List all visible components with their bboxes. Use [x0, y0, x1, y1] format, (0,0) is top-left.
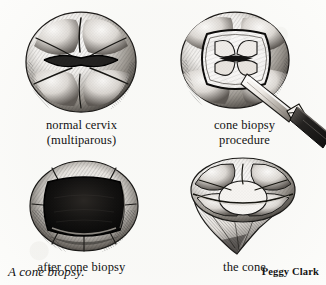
illustration-page: normal cervix (multiparous): [0, 0, 326, 285]
artist-credit: Peggy Clark: [262, 266, 319, 277]
after-cone-biopsy-drawing: [18, 158, 150, 254]
normal-cervix-drawing: [14, 8, 149, 116]
caption-cone-biopsy-procedure: cone biopsy procedure: [163, 118, 326, 147]
panel-cone-biopsy-procedure: cone biopsy procedure: [163, 0, 326, 150]
caption-normal-cervix: normal cervix (multiparous): [0, 118, 163, 147]
figure-title: A cone biopsy.: [8, 264, 85, 280]
panel-the-cone: the cone: [163, 150, 326, 285]
the-cone-drawing: [181, 154, 309, 258]
panel-normal-cervix: normal cervix (multiparous): [0, 0, 163, 150]
